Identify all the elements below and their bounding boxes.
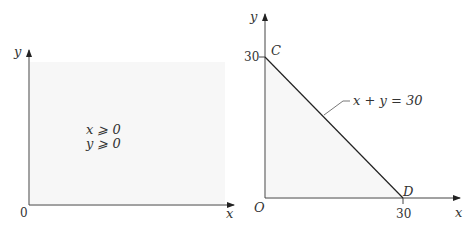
constraint-x: x ⩾ 0 (86, 122, 121, 137)
point-d-label: D (402, 184, 414, 199)
origin-label: O (254, 200, 265, 215)
label-leader-line (324, 101, 350, 115)
x-axis-label: x (455, 205, 463, 220)
x-tick-label: 30 (396, 207, 411, 221)
origin-label: 0 (20, 206, 28, 220)
feasible-region-quadrant (30, 62, 225, 204)
line-equation-label: x + y = 30 (353, 93, 423, 108)
left-panel: y x 0 x ⩾ 0 y ⩾ 0 (13, 44, 234, 221)
diagram-canvas: y x 0 x ⩾ 0 y ⩾ 0 y x O 30 30 C D x + y … (0, 0, 476, 231)
y-axis-label: y (13, 44, 22, 59)
x-axis-label: x (226, 206, 234, 221)
constraint-y: y ⩾ 0 (85, 136, 121, 151)
y-tick-label: 30 (244, 50, 259, 64)
point-c-label: C (271, 43, 281, 58)
y-axis-label: y (249, 9, 258, 24)
right-panel: y x O 30 30 C D x + y = 30 (244, 9, 463, 221)
